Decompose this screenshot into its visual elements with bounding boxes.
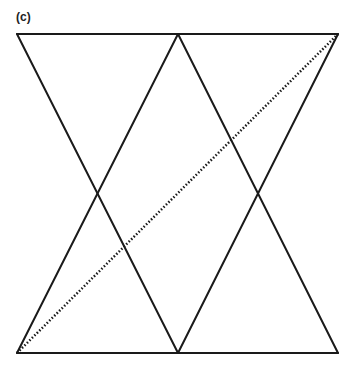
dotted-diagonal-line xyxy=(17,34,338,353)
geometric-diagram xyxy=(0,0,356,377)
